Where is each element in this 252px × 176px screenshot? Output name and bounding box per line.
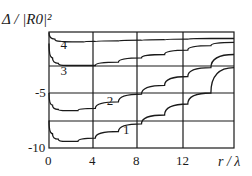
curve-label-2: 2 [107, 93, 114, 108]
curve-labels: 1234 [61, 37, 130, 137]
x-axis-label: r / λ [218, 154, 240, 169]
curve-label-3: 3 [61, 63, 68, 78]
curves [49, 33, 234, 142]
x-tick-0: 0 [45, 153, 52, 168]
plot-frame [49, 32, 234, 148]
curve-1 [49, 68, 234, 142]
x-tick-8: 8 [133, 153, 140, 168]
y-axis-label: Δ / |R0|² [1, 11, 52, 27]
curve-3 [49, 42, 234, 65]
curve-label-4: 4 [61, 37, 68, 52]
curve-2 [49, 55, 234, 111]
curve-label-1: 1 [123, 122, 130, 137]
chart: Δ / |R0|² 1234 -5 -10 0 4 8 12 r / λ [0, 0, 252, 176]
y-tick-minus5: -5 [35, 85, 46, 100]
curve-4 [49, 33, 234, 42]
y-tick-minus10: -10 [28, 140, 45, 155]
x-tick-4: 4 [89, 153, 96, 168]
plot-grid [49, 32, 234, 148]
x-tick-12: 12 [176, 153, 189, 168]
